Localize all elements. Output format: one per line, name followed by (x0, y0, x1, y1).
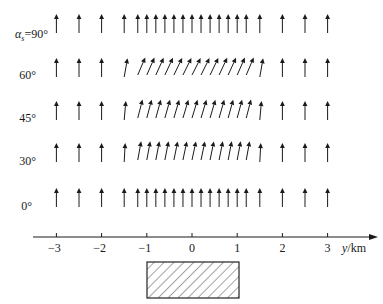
field-arrow-icon (303, 101, 308, 120)
field-arrow-icon (237, 141, 242, 160)
tick-label: 1 (225, 241, 249, 255)
axis-arrowhead-icon (369, 234, 378, 240)
field-arrow-icon (123, 101, 128, 120)
field-arrow-icon (144, 14, 149, 33)
field-arrow-icon (54, 14, 59, 33)
field-arrow-icon (257, 14, 262, 33)
field-arrow-icon (325, 188, 330, 207)
field-arrow-icon (183, 100, 189, 118)
field-arrow-icon (77, 14, 82, 33)
field-arrow-icon (325, 14, 330, 33)
field-arrow-icon (219, 100, 225, 118)
tick-label: −2 (88, 241, 112, 255)
field-arrow-icon (183, 58, 191, 75)
field-arrow-icon (280, 101, 285, 120)
field-arrow-icon (122, 14, 127, 33)
field-arrow-icon (228, 100, 234, 118)
field-arrow-icon (192, 141, 197, 160)
field-arrow-icon (259, 101, 264, 120)
row-label-value: =90° (24, 27, 48, 41)
field-arrow-icon (54, 101, 59, 120)
field-arrow-icon (165, 141, 170, 160)
field-arrow-icon (246, 58, 254, 75)
field-arrow-icon (99, 101, 104, 120)
field-arrow-icon (280, 14, 285, 33)
field-arrow-icon (244, 14, 249, 33)
field-arrow-icon (201, 100, 207, 118)
field-arrow-icon (201, 58, 209, 75)
field-arrow-icon (123, 143, 128, 162)
field-arrow-icon (162, 14, 167, 33)
field-arrow-icon (165, 100, 171, 118)
field-arrow-icon (190, 188, 195, 207)
row-label-60: 60° (0, 68, 36, 82)
field-arrow-icon (99, 58, 104, 77)
arrow-field (54, 14, 330, 207)
tick-label: 3 (316, 241, 340, 255)
field-arrow-icon (77, 143, 82, 162)
field-arrow-icon (174, 58, 182, 75)
field-arrow-icon (280, 143, 285, 162)
field-arrow-icon (156, 141, 161, 160)
field-arrow-icon (303, 143, 308, 162)
field-arrow-icon (99, 14, 104, 33)
field-arrow-icon (325, 143, 330, 162)
field-arrow-icon (219, 141, 224, 160)
field-arrow-icon (303, 14, 308, 33)
tick-label: 0 (180, 241, 204, 255)
field-arrow-icon (246, 141, 251, 160)
field-arrow-icon (54, 143, 59, 162)
field-arrow-icon (260, 58, 265, 77)
field-arrow-icon (147, 100, 153, 118)
field-arrow-icon (257, 188, 262, 207)
field-arrow-icon (303, 58, 308, 77)
field-arrow-icon (210, 141, 215, 160)
field-arrow-icon (54, 188, 59, 207)
field-arrow-icon (183, 141, 188, 160)
field-arrow-icon (138, 58, 146, 75)
source-body-hatched-rectangle (147, 262, 239, 298)
field-arrow-icon (280, 58, 285, 77)
field-arrow-icon (172, 14, 177, 33)
row-label-30: 30° (0, 154, 36, 168)
field-arrow-icon (181, 14, 186, 33)
field-arrow-icon (246, 100, 252, 118)
field-arrow-icon (235, 14, 240, 33)
field-arrow-icon (162, 188, 167, 207)
field-arrow-icon (208, 188, 213, 207)
field-arrow-icon (210, 58, 218, 75)
vector-field-plot (0, 0, 383, 304)
field-arrow-icon (208, 14, 213, 33)
row-label-90: αs=90° (0, 27, 48, 46)
field-arrow-icon (325, 101, 330, 120)
tick-label: −3 (42, 241, 66, 255)
field-arrow-icon (258, 143, 263, 162)
field-arrow-icon (174, 141, 179, 160)
field-arrow-icon (99, 188, 104, 207)
field-arrow-icon (156, 58, 164, 75)
field-arrow-icon (77, 101, 82, 120)
field-arrow-icon (303, 188, 308, 207)
field-arrow-icon (237, 58, 245, 75)
field-arrow-icon (226, 14, 231, 33)
field-arrow-icon (172, 188, 177, 207)
field-arrow-icon (228, 58, 236, 75)
field-arrow-icon (77, 58, 82, 77)
field-arrow-icon (226, 188, 231, 207)
field-arrow-icon (99, 143, 104, 162)
field-arrow-icon (192, 58, 201, 75)
x-axis-title: y/km (342, 241, 366, 255)
field-arrow-icon (237, 100, 243, 118)
tick-label: −1 (133, 241, 157, 255)
row-label-45: 45° (0, 111, 36, 125)
field-arrow-icon (153, 188, 158, 207)
field-arrow-icon (199, 188, 204, 207)
field-arrow-icon (219, 58, 227, 75)
axis-unit: /km (347, 241, 366, 255)
field-arrow-icon (138, 141, 143, 160)
field-arrow-icon (124, 58, 129, 77)
field-arrow-icon (135, 188, 140, 207)
field-arrow-icon (138, 100, 144, 118)
field-arrow-icon (54, 58, 59, 77)
field-arrow-icon (325, 58, 330, 77)
